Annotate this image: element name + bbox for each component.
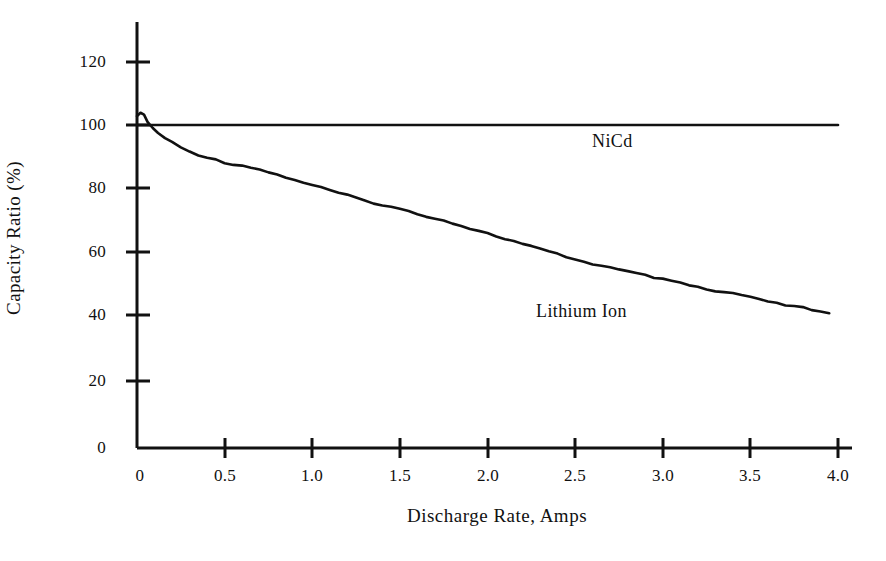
chart-figure: 120 100 80 60 40 20 0 0 0.5 1.0 1.5 2.0 … <box>0 0 886 561</box>
y-tick-label-100: 100 <box>60 115 106 135</box>
y-tick-label-80: 80 <box>60 178 106 198</box>
y-tick-label-60: 60 <box>60 242 106 262</box>
x-tick-label-2-5: 2.5 <box>564 466 586 486</box>
data-series-layer <box>137 113 838 314</box>
x-tick-label-3-0: 3.0 <box>652 466 674 486</box>
y-tick-label-120: 120 <box>60 52 106 72</box>
x-tick-label-1-0: 1.0 <box>301 466 323 486</box>
series-line-lithium-ion <box>137 113 829 314</box>
x-tick-label-0-5: 0.5 <box>214 466 236 486</box>
x-axis-title: Discharge Rate, Amps <box>407 505 587 527</box>
y-axis-title: Capacity Ratio (%) <box>3 161 25 315</box>
x-tick-label-4-0: 4.0 <box>827 466 849 486</box>
y-tick-label-40: 40 <box>60 305 106 325</box>
series-label-lithium-ion: Lithium Ion <box>536 301 627 322</box>
y-tick-label-20: 20 <box>60 371 106 391</box>
x-tick-label-3-5: 3.5 <box>739 466 761 486</box>
x-tick-label-1-5: 1.5 <box>389 466 411 486</box>
y-tick-label-0: 0 <box>60 438 106 458</box>
x-tick-label-2-0: 2.0 <box>477 466 499 486</box>
series-label-nicd: NiCd <box>592 131 633 152</box>
x-tick-label-0: 0 <box>136 466 145 486</box>
